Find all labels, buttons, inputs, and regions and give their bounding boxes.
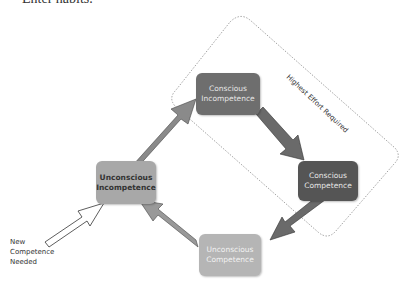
stage-label: Unconscious Incompetence [96,173,156,193]
stage-conscious-competence: Conscious Competence [298,161,358,201]
new-competence-label: New Competence Needed [10,237,60,267]
stage-label: Conscious Competence [298,171,358,191]
stage-unconscious-competence: Unconscious Competence [199,234,261,276]
stage-unconscious-incompetence: Unconscious Incompetence [96,161,156,204]
stage-conscious-incompetence: Conscious Incompetence [196,73,260,115]
stage-label: Unconscious Competence [199,245,261,265]
arrow-ci-to-cc [256,107,304,160]
arrow-ui-to-ci [133,99,196,169]
arrow-uc-to-ui [139,200,198,247]
effort-boundary [172,16,399,236]
stage-label: Conscious Incompetence [196,84,260,104]
